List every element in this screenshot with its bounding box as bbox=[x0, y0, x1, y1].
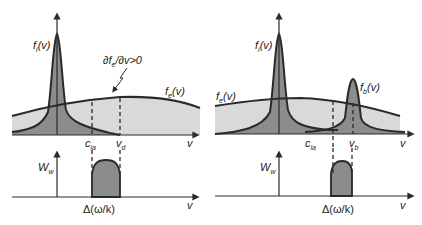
panel-top-right: fi(v) fe(v) fb(v) cia vb v bbox=[215, 16, 411, 151]
electron-dist-label: fe(v) bbox=[165, 85, 185, 99]
cia-label: cia bbox=[85, 137, 96, 151]
x-axis-label: v bbox=[400, 199, 407, 211]
wave-energy-label: Ww bbox=[260, 161, 276, 175]
panel-bottom-left: Ww Δ(ω/k) v bbox=[12, 150, 196, 215]
ion-dist-label: fi(v) bbox=[33, 39, 51, 53]
gradient-annotation-label: ∂fe/∂v>0 bbox=[103, 54, 143, 68]
ion-dist-label: fi(v) bbox=[255, 39, 273, 53]
beam-dist-label: fb(v) bbox=[360, 81, 380, 95]
vb-label: vb bbox=[349, 137, 359, 151]
vd-label: vd bbox=[116, 137, 127, 151]
width-label: Δ(ω/k) bbox=[83, 203, 115, 215]
electron-dist-label: fe(v) bbox=[216, 90, 236, 104]
panel-top-left: fi(v) ∂fe/∂v>0 fe(v) cia vd v bbox=[12, 16, 200, 151]
wave-energy-bump bbox=[92, 160, 120, 197]
x-axis-label: v bbox=[400, 137, 407, 149]
wave-energy-label: Ww bbox=[38, 161, 54, 175]
x-axis-label: v bbox=[187, 137, 194, 149]
width-label: Δ(ω/k) bbox=[322, 203, 354, 215]
cia-label: cia bbox=[305, 137, 316, 151]
wave-energy-bump bbox=[331, 161, 352, 196]
diagram-canvas: fi(v) ∂fe/∂v>0 fe(v) cia vd v Ww Δ(ω/k) … bbox=[0, 0, 422, 225]
gradient-annotation-arrow bbox=[114, 68, 127, 90]
panel-bottom-right: Ww Δ(ω/k) v bbox=[215, 148, 411, 215]
x-axis-label: v bbox=[187, 199, 194, 211]
